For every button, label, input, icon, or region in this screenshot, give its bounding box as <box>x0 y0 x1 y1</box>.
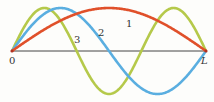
right-node <box>204 49 207 52</box>
mode-1-label: 1 <box>126 18 132 29</box>
mode-1-curve <box>12 8 206 51</box>
mode-2-label: 2 <box>98 27 104 38</box>
axis-start-label: 0 <box>9 55 15 66</box>
mode-3-label: 3 <box>74 34 80 45</box>
axis-end-label: L <box>200 55 208 66</box>
standing-wave-diagram: 1 2 3 0 L <box>0 0 214 102</box>
left-node <box>10 49 13 52</box>
